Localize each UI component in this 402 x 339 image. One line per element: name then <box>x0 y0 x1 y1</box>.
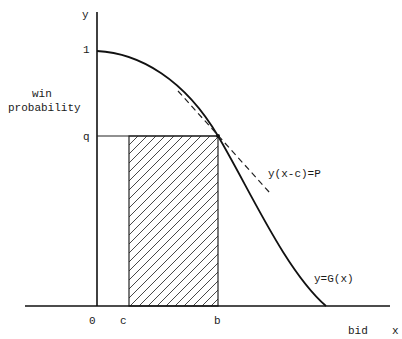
hatch-line <box>0 136 138 306</box>
hatch-line <box>0 136 129 306</box>
x-tick-zero: 0 <box>89 315 96 327</box>
hatch-line <box>76 136 246 306</box>
curve-label: y=G(x) <box>314 273 354 285</box>
hatch-line <box>0 136 156 306</box>
hatch-line <box>94 136 264 306</box>
x-tick-b: b <box>214 315 221 327</box>
hatch-line <box>13 136 183 306</box>
hatch-line <box>58 136 228 306</box>
hatch-line <box>85 136 255 306</box>
y-axis-label: y <box>82 9 89 21</box>
y-caption-line2: probability <box>8 102 81 114</box>
x-tick-c: c <box>120 315 127 327</box>
hatch-line <box>49 136 219 306</box>
hatch-line <box>220 136 390 306</box>
hatch-line <box>22 136 192 306</box>
hatch-line <box>4 136 174 306</box>
hatch-line <box>139 136 309 306</box>
hatch-line <box>40 136 210 306</box>
hatch-line <box>0 136 147 306</box>
hatch-line <box>112 136 282 306</box>
iso-profit-tangent <box>178 91 270 193</box>
x-axis-label: x <box>392 325 399 337</box>
hatch-line <box>67 136 237 306</box>
y-tick-q: q <box>83 131 90 143</box>
hatch-line <box>211 136 381 306</box>
x-axis-caption: bid <box>348 325 368 337</box>
y-tick-one: 1 <box>83 44 90 56</box>
tangent-label: y(x-c)=P <box>268 168 321 180</box>
hatch-line <box>0 136 165 306</box>
diagram-canvas: y 1 win probability q 0 c b bid x y(x-c)… <box>0 0 402 339</box>
hatch-line <box>31 136 201 306</box>
tangency-point <box>216 134 220 138</box>
y-caption-line1: win <box>32 88 52 100</box>
hatch-line <box>166 136 336 306</box>
hatch-line <box>130 136 300 306</box>
